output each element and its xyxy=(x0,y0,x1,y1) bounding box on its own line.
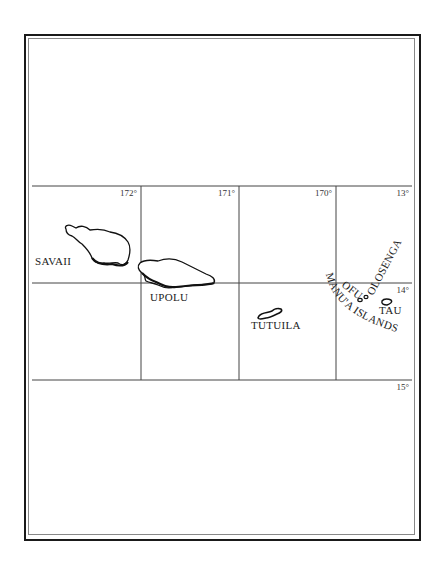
latitude-label-14: 14° xyxy=(396,285,409,295)
label-savaii: SAVAII xyxy=(35,255,71,267)
label-tau: TAU xyxy=(379,304,402,316)
label-upolu: UPOLU xyxy=(150,291,188,303)
longitude-label-172: 172° xyxy=(120,188,138,198)
island-olosenga xyxy=(364,295,368,298)
longitude-label-171: 171° xyxy=(218,188,236,198)
longitude-label-170: 170° xyxy=(315,188,333,198)
map-canvas: 172° 171° 170° 13° 14° 15° SAVAII UPOLU … xyxy=(0,0,443,562)
island-savaii xyxy=(65,225,129,265)
latitude-label-15: 15° xyxy=(396,382,409,392)
label-tutuila: TUTUILA xyxy=(251,319,301,331)
island-tutuila xyxy=(258,309,282,320)
latitude-label-13: 13° xyxy=(396,188,409,198)
